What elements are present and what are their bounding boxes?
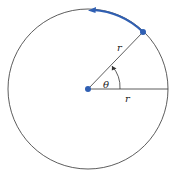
arc-arrowhead-icon [88,7,96,13]
angle-label: θ [103,79,109,90]
angle-arrowhead-icon [112,66,117,71]
arc-length-s [93,10,143,32]
radius-label-horizontal: r [125,93,131,104]
radius-label-diagonal: r [117,42,123,53]
diagonal-radius [88,32,143,89]
circle-point [140,29,146,35]
center-point [85,86,91,92]
radian-diagram: r θ r [0,0,174,177]
